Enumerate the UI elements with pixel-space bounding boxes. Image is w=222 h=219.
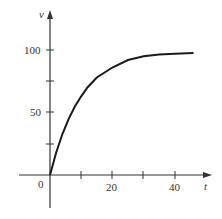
y-tick-label-100: 100 [24, 44, 41, 56]
x-axis-label: t [204, 180, 208, 192]
x-tick-label-20: 20 [106, 181, 118, 193]
x-axis-arrow-icon [203, 172, 212, 178]
chart: v 100 50 0 20 40 t [0, 0, 222, 219]
y-axis-arrow-icon [47, 10, 53, 19]
x-tick-label-40: 40 [169, 181, 181, 193]
y-tick-label-50: 50 [30, 106, 42, 118]
curve-v-of-t [50, 53, 194, 175]
y-axis-label: v [39, 8, 44, 20]
origin-label: 0 [38, 178, 44, 190]
